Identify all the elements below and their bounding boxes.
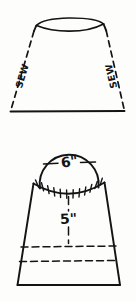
shade-shoulder-left bbox=[34, 26, 36, 31]
shade-bottom-edge bbox=[11, 111, 125, 112]
gathering-seam-curve bbox=[34, 183, 105, 194]
skirt-side-edge-right bbox=[105, 183, 121, 286]
skirt-hem-line-upper bbox=[21, 246, 117, 247]
pattern-drawing-canvas: SEW SEW 6" bbox=[0, 0, 136, 302]
skirt-side-edge-left bbox=[18, 184, 34, 286]
shade-rim-outer-arc bbox=[37, 18, 104, 26]
sew-label-left: SEW bbox=[13, 62, 31, 89]
figure-shade-cone: SEW SEW bbox=[11, 18, 125, 112]
skirt-hem-line-lower bbox=[20, 261, 119, 262]
skirt-depth-label: 5" bbox=[60, 210, 78, 227]
circle-diameter-leader-left bbox=[44, 163, 59, 164]
circle-diameter-label: 6" bbox=[60, 152, 79, 170]
shade-rim-inner-arc bbox=[37, 24, 104, 31]
pattern-diagram: SEW SEW 6" bbox=[0, 0, 136, 302]
figure-gathered-skirt: 6" bbox=[18, 152, 121, 285]
shade-shoulder-right bbox=[104, 24, 107, 31]
